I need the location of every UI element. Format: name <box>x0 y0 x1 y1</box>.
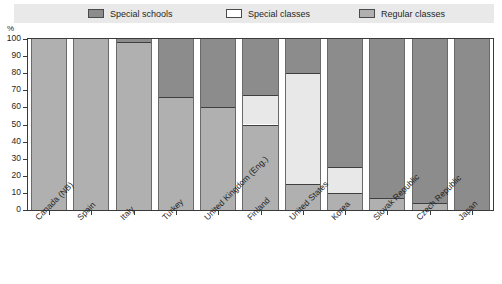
bar-segment-special-schools <box>200 39 236 107</box>
bar-segment-special-schools <box>454 39 490 210</box>
y-axis-tick-label: 90 <box>0 51 21 60</box>
bar-series-container <box>28 39 493 210</box>
bar-segment-special-schools <box>285 39 321 73</box>
legend-label-special-schools: Special schools <box>110 9 173 19</box>
chart-figure: Special schools Special classes Regular … <box>0 0 502 284</box>
chart-legend: Special schools Special classes Regular … <box>14 4 494 23</box>
y-axis-tick-label: 20 <box>0 171 21 180</box>
y-axis-unit-label: % <box>7 24 14 33</box>
bar-segment-regular-classes <box>73 39 109 210</box>
bar-group <box>158 39 194 210</box>
y-axis-tick-label: 50 <box>0 120 21 129</box>
legend-item-special-schools: Special schools <box>88 9 173 19</box>
bar-segment-special-classes <box>327 167 363 193</box>
legend-label-regular-classes: Regular classes <box>381 9 445 19</box>
y-axis-tick-label: 30 <box>0 154 21 163</box>
bar-segment-special-classes <box>285 73 321 184</box>
bar-group <box>73 39 109 210</box>
y-axis: 1009080706050403020100 <box>0 38 27 211</box>
bar-segment-regular-classes <box>116 42 152 210</box>
bar-group <box>327 39 363 210</box>
legend-item-special-classes: Special classes <box>226 9 310 19</box>
bar-group <box>285 39 321 210</box>
y-axis-tick-label: 10 <box>0 188 21 197</box>
y-axis-tick-label: 80 <box>0 68 21 77</box>
legend-swatch-regular-classes <box>359 9 375 18</box>
x-axis-labels: Canada (NB)SpainItalyTurkeyUnited Kingdo… <box>0 213 502 284</box>
bar-segment-special-schools <box>158 39 194 97</box>
legend-item-regular-classes: Regular classes <box>359 9 445 19</box>
bar-segment-special-classes <box>242 95 278 124</box>
bar-group <box>412 39 448 210</box>
legend-swatch-special-classes <box>226 9 242 18</box>
bar-segment-special-schools <box>369 39 405 198</box>
legend-swatch-special-schools <box>88 9 104 18</box>
bar-group <box>116 39 152 210</box>
y-axis-tick-label: 60 <box>0 102 21 111</box>
bar-group <box>454 39 490 210</box>
y-axis-tick-label: 100 <box>0 34 21 43</box>
bar-segment-special-schools <box>327 39 363 167</box>
y-axis-tick-label: 40 <box>0 137 21 146</box>
bar-segment-regular-classes <box>158 97 194 210</box>
y-axis-tick-label: 70 <box>0 85 21 94</box>
bar-group <box>242 39 278 210</box>
legend-label-special-classes: Special classes <box>248 9 310 19</box>
bar-segment-special-schools <box>242 39 278 95</box>
